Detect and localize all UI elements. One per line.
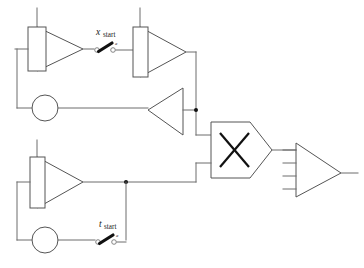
- summer-bottom-circle: [32, 227, 58, 253]
- diagram-canvas: a x start: [0, 0, 364, 268]
- switch-x-start-blade: [99, 43, 113, 52]
- integrator-top-left[interactable]: [15, 8, 94, 71]
- integrator-bottom[interactable]: [17, 140, 196, 208]
- summer-top-circle: [32, 95, 58, 121]
- integrator-top-left-body: [28, 27, 46, 71]
- output-amplifier-triangle: [296, 143, 341, 197]
- label-x-start-variable: x: [95, 27, 101, 37]
- label-t-start-subscript: start: [104, 223, 116, 231]
- integrator-top-right-body: [133, 27, 148, 77]
- circuit-diagram: a x start: [0, 0, 364, 268]
- inverter-top-triangle: [148, 88, 183, 135]
- integrator-bottom-body: [30, 157, 45, 208]
- label-x-start-subscript: start: [103, 31, 115, 39]
- switch-t-start-terminal-label: a: [116, 233, 119, 238]
- switch-t-start-terminal-right: [112, 240, 117, 245]
- output-amplifier[interactable]: [283, 143, 358, 197]
- integrator-top-right[interactable]: [133, 8, 196, 77]
- inverter-top[interactable]: [148, 88, 196, 135]
- summer-bottom[interactable]: [17, 227, 95, 253]
- switch-x-start[interactable]: a: [95, 41, 133, 52]
- switch-x-start-terminal-right: [111, 48, 116, 53]
- junction-top-bus: [194, 108, 198, 112]
- summer-top[interactable]: [17, 95, 148, 121]
- switch-x-start-terminal-label: a: [115, 41, 118, 46]
- switch-t-start[interactable]: a: [96, 233, 126, 244]
- label-t-start: t start: [99, 219, 116, 231]
- multiplier-body: [211, 122, 272, 178]
- switch-t-start-blade: [100, 235, 114, 244]
- label-x-start: x start: [95, 27, 115, 39]
- label-t-start-variable: t: [99, 219, 102, 229]
